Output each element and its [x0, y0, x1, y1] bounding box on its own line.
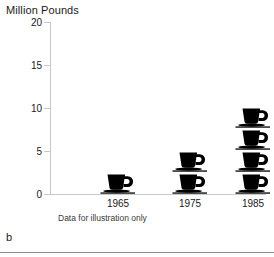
y-axis-line — [50, 22, 51, 194]
y-tick-mark — [44, 151, 50, 152]
coffee-cup-icon — [233, 106, 273, 128]
y-tick-mark — [44, 22, 50, 23]
pictogram-stack-1985 — [233, 106, 273, 194]
y-tick-mark — [44, 65, 50, 66]
y-axis-title: Million Pounds — [6, 4, 79, 16]
coffee-cup-icon — [170, 150, 210, 172]
y-tick-label: 5 — [2, 146, 42, 157]
figure-letter: b — [6, 231, 12, 243]
y-tick-mark — [44, 108, 50, 109]
coffee-cup-icon — [233, 128, 273, 150]
pictogram-stack-1965 — [98, 172, 138, 194]
y-tick-label: 20 — [2, 17, 42, 28]
x-category-label-1985: 1985 — [231, 198, 274, 209]
page-edge — [0, 253, 274, 257]
chart-footnote: Data for illustration only — [58, 213, 147, 223]
y-tick-label: 0 — [2, 189, 42, 200]
y-tick-mark — [44, 194, 50, 195]
x-category-label-1965: 1965 — [96, 198, 140, 209]
x-category-label-1975: 1975 — [168, 198, 212, 209]
pictogram-stack-1975 — [170, 150, 210, 194]
x-axis-line — [50, 194, 266, 195]
coffee-cup-icon — [233, 150, 273, 172]
y-tick-label: 10 — [2, 103, 42, 114]
y-tick-label: 15 — [2, 60, 42, 71]
coffee-cup-icon — [98, 172, 138, 194]
coffee-cup-icon — [233, 172, 273, 194]
pictogram-chart-figure: Million Pounds 05101520 196519751985 Dat… — [0, 0, 274, 257]
coffee-cup-icon — [170, 172, 210, 194]
